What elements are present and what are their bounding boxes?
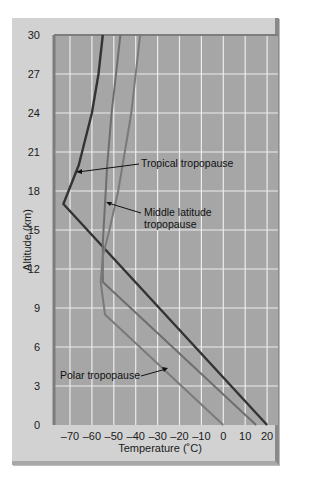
y-tick-label: 9 bbox=[34, 302, 40, 314]
y-tick-label: 3 bbox=[34, 380, 40, 392]
x-tick-label: –50 bbox=[105, 430, 123, 442]
y-tick-label: 21 bbox=[28, 146, 40, 158]
y-axis-label: Altitude (km) bbox=[21, 209, 33, 271]
x-axis-label: Temperature (˚C) bbox=[118, 442, 202, 454]
mid-latitude-tropopause-label-line2: tropopause bbox=[144, 218, 197, 230]
tropical-tropopause-label: Tropical tropopause bbox=[141, 157, 234, 169]
x-tick-label: –70 bbox=[61, 430, 79, 442]
polar-tropopause-label: Polar tropopause bbox=[60, 369, 140, 381]
y-tick-label: 24 bbox=[28, 107, 40, 119]
x-tick-label: 20 bbox=[261, 430, 273, 442]
x-tick-label: –20 bbox=[170, 430, 188, 442]
x-tick-label: –10 bbox=[192, 430, 210, 442]
x-tick-label: 0 bbox=[220, 430, 226, 442]
x-tick-label: 10 bbox=[239, 430, 251, 442]
x-tick-label: –40 bbox=[127, 430, 145, 442]
y-tick-label: 27 bbox=[28, 68, 40, 80]
y-tick-label: 30 bbox=[28, 29, 40, 41]
temperature-altitude-chart: 036912151821242730 –70–60–50–40–30–20–10… bbox=[0, 0, 310, 479]
x-tick-label: –60 bbox=[83, 430, 101, 442]
x-tick-label: –30 bbox=[148, 430, 166, 442]
x-tick-labels: –70–60–50–40–30–20–1001020 bbox=[61, 430, 273, 442]
y-tick-label: 0 bbox=[34, 419, 40, 431]
mid-latitude-tropopause-label-line1: Middle latitude bbox=[144, 206, 212, 218]
y-tick-label: 6 bbox=[34, 341, 40, 353]
y-tick-label: 18 bbox=[28, 185, 40, 197]
